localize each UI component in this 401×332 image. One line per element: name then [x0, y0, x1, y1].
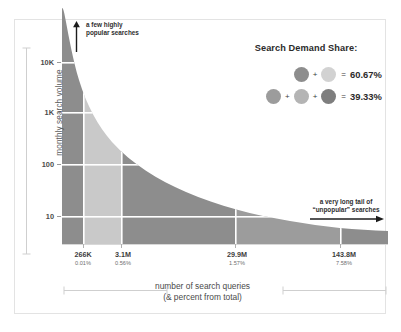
legend-value-head-share: 60.67% — [350, 69, 390, 80]
legend-dot-head-2 — [321, 67, 336, 82]
legend-value-tail-share: 39.33% — [350, 91, 390, 102]
legend-equals-1: = — [341, 70, 346, 79]
legend: Search Demand Share: + = 60.67% + + = 39… — [218, 43, 394, 107]
annotation-tail-line2: “unpopular” searches — [296, 206, 396, 214]
annotation-tail-line1: a very long tail of — [296, 198, 396, 206]
x-tick-mark-3-1m — [121, 244, 122, 248]
x-axis-range-bracket — [62, 286, 388, 295]
search-demand-curve-chart: monthly search volume 10K 1K 100 10 266K… — [0, 0, 401, 332]
y-axis-range-bracket — [22, 46, 31, 256]
legend-dot-tail-2 — [294, 89, 309, 104]
x-tick-percent-29-9m: 1.57% — [207, 259, 267, 267]
x-tick-3-1m: 3.1M 0.56% — [93, 250, 153, 267]
legend-equals-2: = — [341, 92, 346, 101]
x-tick-143-8m: 143.8M 7.58% — [314, 250, 374, 267]
gridline-100 — [62, 164, 388, 166]
x-tick-mark-143-8m — [340, 244, 341, 248]
legend-operator-plus-3: + — [313, 92, 318, 101]
x-tick-value-29-9m: 29.9M — [207, 250, 267, 259]
gridline-3-1m — [121, 8, 123, 244]
annotation-head: a few highly popular searches — [86, 21, 170, 37]
y-tick-mark-1k — [57, 112, 61, 113]
band-head-2 — [83, 8, 121, 244]
tail-arrow-icon — [310, 215, 384, 223]
legend-title: Search Demand Share: — [218, 43, 394, 53]
y-tick-mark-10k — [57, 62, 61, 63]
x-tick-29-9m: 29.9M 1.57% — [207, 250, 267, 267]
annotation-head-line2: popular searches — [86, 29, 170, 37]
x-tick-value-3-1m: 3.1M — [93, 250, 153, 259]
y-tick-mark-100 — [57, 164, 61, 165]
x-tick-value-143-8m: 143.8M — [314, 250, 374, 259]
legend-row-head-share: + = 60.67% — [218, 63, 394, 85]
legend-operator-plus-1: + — [313, 70, 318, 79]
head-arrow-icon — [72, 21, 81, 53]
x-tick-mark-266k — [83, 244, 84, 248]
legend-dot-tail-3 — [321, 89, 336, 104]
legend-row-tail-share: + + = 39.33% — [218, 85, 394, 107]
y-tick-mark-10 — [57, 216, 61, 217]
legend-dot-tail-1 — [266, 89, 281, 104]
gridline-266k — [83, 8, 85, 244]
x-tick-mark-29-9m — [235, 244, 236, 248]
legend-operator-plus-2: + — [285, 92, 290, 101]
legend-dot-head-1 — [294, 67, 309, 82]
annotation-tail: a very long tail of “unpopular” searches — [296, 198, 396, 214]
gridline-1k — [62, 112, 388, 114]
x-tick-percent-143-8m: 7.58% — [314, 259, 374, 267]
x-tick-percent-3-1m: 0.56% — [93, 259, 153, 267]
annotation-head-line1: a few highly — [86, 21, 170, 29]
